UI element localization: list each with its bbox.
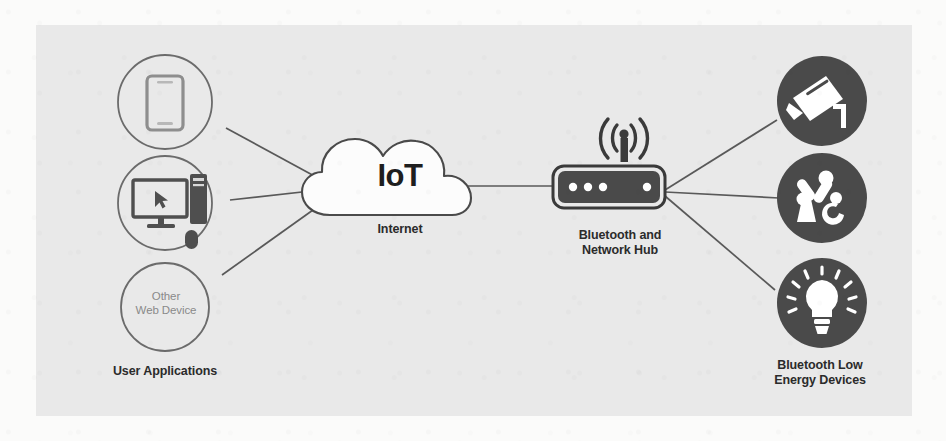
smartphone-icon — [147, 76, 183, 130]
router-hub-icon[interactable] — [553, 119, 665, 208]
smartphone-speaker — [157, 81, 173, 84]
cloud-iot-label: IoT — [335, 158, 465, 194]
antenna-tip-dot — [619, 129, 628, 138]
hub-led-2 — [584, 183, 592, 191]
internet-label: Internet — [335, 222, 465, 237]
desktop-computer-icon — [133, 174, 207, 249]
hub-led-1 — [569, 183, 577, 191]
node-smartphone[interactable] — [118, 55, 212, 149]
hub-led-power — [643, 183, 651, 191]
link-smartphone-to-cloud — [226, 128, 318, 178]
node-smart-light-bulb[interactable] — [777, 258, 867, 348]
link-hub-to-security-camera — [665, 120, 777, 190]
other-web-device-label: Other Web Device — [120, 289, 212, 317]
hub-label: Bluetooth and Network Hub — [545, 228, 695, 258]
node-security-camera[interactable] — [777, 56, 867, 146]
iot-diagram: Other Web Device User Applications IoT I… — [0, 0, 946, 441]
smartphone-circle — [118, 55, 212, 149]
ble-devices-label: Bluetooth Low Energy Devices — [740, 358, 900, 388]
smartphone-home-button — [157, 122, 173, 125]
node-robotic-arm[interactable] — [777, 153, 867, 243]
link-hub-to-robotic-arm — [665, 192, 779, 198]
hub-led-3 — [599, 183, 607, 191]
antenna-post — [621, 138, 629, 162]
link-other-web-device-to-cloud — [222, 205, 320, 275]
user-applications-label: User Applications — [85, 364, 245, 379]
node-desktop-computer[interactable] — [118, 156, 212, 250]
